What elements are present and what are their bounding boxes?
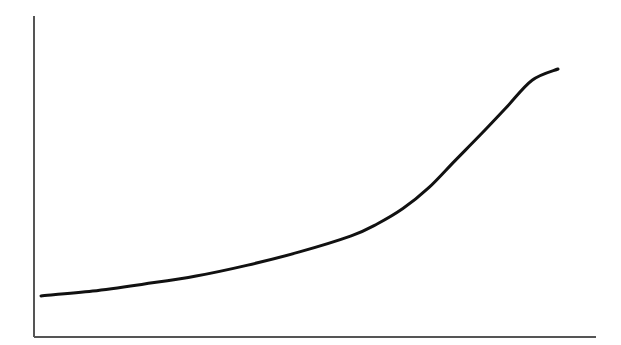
line-chart (0, 0, 621, 345)
chart-container (0, 0, 621, 345)
data-line (41, 69, 558, 296)
